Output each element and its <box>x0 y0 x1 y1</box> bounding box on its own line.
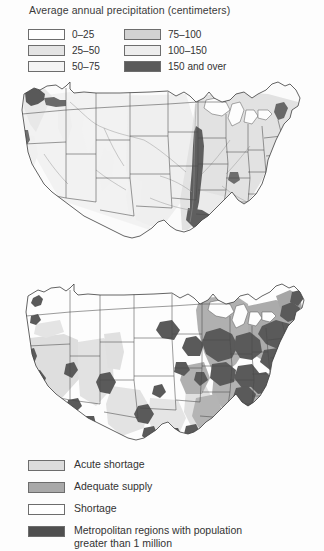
legend-column-right: 75–100 100–150 150 and over <box>124 28 264 72</box>
legend-label: Acute shortage <box>74 458 145 471</box>
legend-label: Shortage <box>74 502 117 515</box>
legend-label: 100–150 <box>168 45 207 56</box>
legend-label: 0–25 <box>72 29 94 40</box>
legend-label: 50–75 <box>72 61 100 72</box>
legend-item: 50–75 <box>28 60 124 72</box>
legend-item: Metropolitan regions with population gre… <box>28 524 308 550</box>
legend-swatch <box>28 460 65 471</box>
legend-label-line2: greater than 1 million <box>74 537 172 549</box>
legend-item: Acute shortage <box>28 458 308 471</box>
legend-label: 150 and over <box>168 61 226 72</box>
legend-swatch <box>124 45 161 56</box>
legend-item: 150 and over <box>124 60 264 72</box>
legend-label-multiline: Metropolitan regions with population gre… <box>74 524 242 550</box>
figure-title: Average annual precipitation (centimeter… <box>29 4 230 16</box>
legend-label: 75–100 <box>168 29 201 40</box>
legend-label-line1: Metropolitan regions with population <box>74 524 242 536</box>
legend-swatch <box>124 61 161 72</box>
legend-swatch <box>28 61 65 72</box>
water-supply-map <box>0 278 324 460</box>
figure-root: Average annual precipitation (centimeter… <box>0 0 324 551</box>
legend-item: Adequate supply <box>28 480 308 493</box>
legend-item: 25–50 <box>28 44 124 56</box>
legend-swatch <box>124 29 161 40</box>
legend-swatch <box>28 482 65 493</box>
legend-item: 75–100 <box>124 28 264 40</box>
legend-item: 100–150 <box>124 44 264 56</box>
legend-swatch <box>28 504 65 515</box>
legend-swatch <box>28 45 65 56</box>
legend-column-left: 0–25 25–50 50–75 <box>28 28 124 72</box>
legend-label: 25–50 <box>72 45 100 56</box>
legend-item: 0–25 <box>28 28 124 40</box>
legend-label: Adequate supply <box>74 480 152 493</box>
precipitation-map <box>0 80 324 260</box>
precipitation-legend: 0–25 25–50 50–75 75–100 100–15 <box>28 28 268 72</box>
legend-swatch <box>28 526 65 537</box>
legend-item: Shortage <box>28 502 308 515</box>
legend-swatch <box>28 29 65 40</box>
water-supply-legend: Acute shortage Adequate supply Shortage … <box>28 458 308 551</box>
